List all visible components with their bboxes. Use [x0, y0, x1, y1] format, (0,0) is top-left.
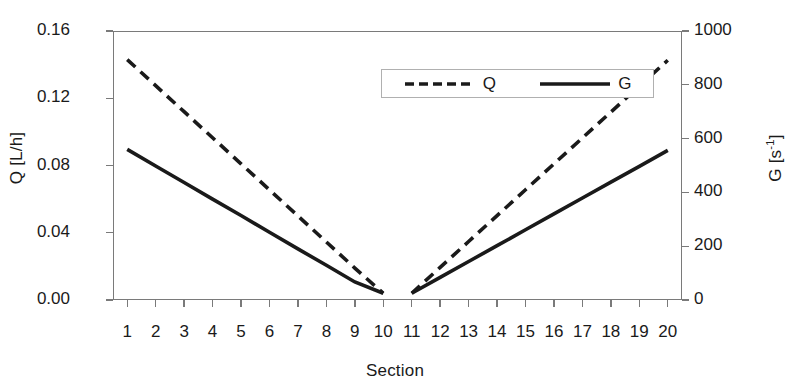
- x-axis-tick: [326, 300, 327, 307]
- x-axis-tick: [212, 300, 213, 307]
- y-axis-right-tick-label: 600: [694, 128, 764, 148]
- x-axis-tick: [582, 300, 583, 307]
- chart-figure: Q [L/h] G [s-1] Section 0.000.040.080.12…: [0, 0, 790, 392]
- y-axis-right-tick-label: 800: [694, 74, 764, 94]
- legend-label-g: G: [618, 75, 631, 92]
- y-axis-left-tick-label: 0.12: [0, 87, 70, 107]
- legend-label-q: Q: [483, 75, 496, 92]
- legend-solid-line-icon: [539, 79, 611, 89]
- x-axis-tick: [240, 300, 241, 307]
- y-axis-right-tick: [682, 246, 689, 247]
- y-axis-right-tick: [682, 30, 689, 31]
- x-axis-tick: [525, 300, 526, 307]
- y-axis-right-tick: [682, 138, 689, 139]
- x-axis-tick: [553, 300, 554, 307]
- y-axis-right-title-tail: ]: [766, 134, 785, 139]
- y-axis-left-tick-label: 0.04: [0, 222, 70, 242]
- y-axis-left-tick-label: 0.00: [0, 289, 70, 309]
- legend-dashed-line-icon: [404, 79, 476, 89]
- y-axis-left-tick-label: 0.16: [0, 20, 70, 40]
- x-axis-tick: [297, 300, 298, 307]
- x-axis-tick: [127, 300, 128, 307]
- plot-area: Q G: [113, 31, 682, 300]
- y-axis-right-tick-label: 1000: [694, 20, 764, 40]
- y-axis-right-tick: [682, 84, 689, 85]
- x-axis-tick: [468, 300, 469, 307]
- x-axis-tick: [411, 300, 412, 307]
- x-axis-tick: [639, 300, 640, 307]
- x-axis-tick-label: 20: [648, 322, 688, 342]
- legend-entry-q: Q: [404, 75, 496, 92]
- y-axis-right-title-main: G [s: [766, 150, 785, 182]
- y-axis-left-tick: [106, 299, 113, 300]
- y-axis-right-tick: [682, 192, 689, 193]
- x-axis-title: Section: [0, 361, 790, 381]
- y-axis-left-tick: [106, 165, 113, 166]
- x-axis-tick: [269, 300, 270, 307]
- y-axis-left-tick-label: 0.08: [0, 155, 70, 175]
- x-axis-tick: [610, 300, 611, 307]
- y-axis-right-tick-label: 0: [694, 289, 764, 309]
- x-axis-tick: [667, 300, 668, 307]
- x-axis-tick: [354, 300, 355, 307]
- y-axis-right-tick: [682, 299, 689, 300]
- y-axis-left-tick: [106, 232, 113, 233]
- y-axis-left-tick: [106, 30, 113, 31]
- y-axis-left-tick: [106, 98, 113, 99]
- x-axis-tick: [496, 300, 497, 307]
- x-axis-tick: [383, 300, 384, 307]
- y-axis-right-title-exponent: -1: [764, 139, 776, 149]
- x-axis-tick: [183, 300, 184, 307]
- chart-legend: Q G: [381, 69, 654, 98]
- x-axis-tick: [155, 300, 156, 307]
- legend-entry-g: G: [539, 75, 631, 92]
- y-axis-right-tick-label: 200: [694, 235, 764, 255]
- x-axis-tick: [439, 300, 440, 307]
- y-axis-right-title: G [s-1]: [766, 98, 786, 218]
- y-axis-right-tick-label: 400: [694, 181, 764, 201]
